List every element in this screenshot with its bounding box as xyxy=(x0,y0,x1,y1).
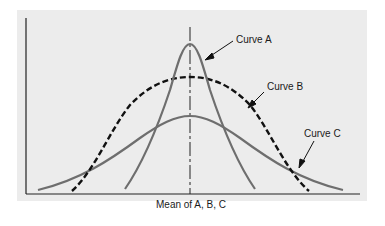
label-curve-c: Curve C xyxy=(304,128,341,139)
label-curve-b: Curve B xyxy=(267,81,303,92)
x-axis-label: Mean of A, B, C xyxy=(156,199,226,210)
chart-svg xyxy=(0,0,385,226)
arrow-curve-c xyxy=(302,141,314,163)
arrowhead-c xyxy=(299,159,305,168)
label-curve-a: Curve A xyxy=(236,34,272,45)
arrowhead-a xyxy=(205,53,214,60)
